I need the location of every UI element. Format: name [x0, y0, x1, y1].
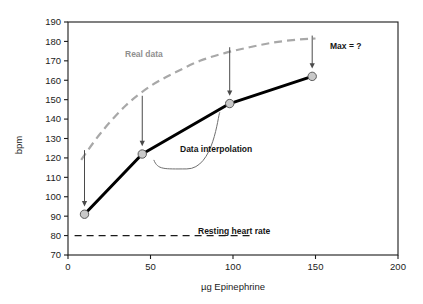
resting-heart-rate-label: Resting heart rate [198, 226, 271, 236]
y-tick-label: 90 [50, 211, 61, 222]
y-tick-label: 120 [45, 152, 61, 163]
data-interpolation-label: Data interpolation [180, 144, 252, 154]
x-tick-label: 100 [225, 261, 241, 272]
y-tick-label: 170 [45, 55, 61, 66]
y-tick-label: 70 [50, 249, 61, 260]
real-data-label: Real data [125, 49, 163, 59]
data-point-marker [80, 210, 88, 218]
y-tick-label: 190 [45, 16, 61, 27]
x-tick-label: 0 [65, 261, 70, 272]
y-axis-title: bpm [13, 136, 24, 155]
y-tick-label: 110 [46, 172, 61, 183]
y-tick-label: 130 [45, 133, 61, 144]
max-question-label: Max = ? [330, 41, 361, 51]
y-tick-label: 100 [45, 191, 61, 202]
y-tick-label: 160 [45, 75, 61, 86]
x-axis-title: µg Epinephrine [201, 281, 265, 292]
x-tick-label: 150 [308, 261, 324, 272]
x-tick-label: 50 [145, 261, 156, 272]
chart-container: 708090100110120130140150160170180190 050… [0, 0, 423, 304]
data-point-marker [226, 99, 234, 107]
data-point-marker [138, 150, 146, 158]
y-tick-label: 150 [45, 94, 61, 105]
y-tick-label: 80 [50, 230, 61, 241]
dose-response-chart: 708090100110120130140150160170180190 050… [0, 0, 423, 304]
x-tick-label: 200 [390, 261, 406, 272]
data-point-marker [308, 72, 316, 80]
y-tick-label: 140 [45, 113, 61, 124]
y-tick-label: 180 [45, 36, 61, 47]
